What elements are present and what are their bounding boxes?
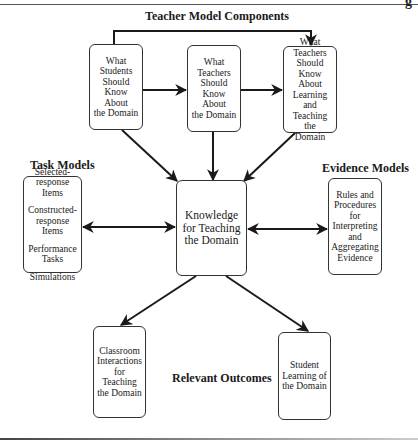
task-item-selected-response: Selected- response Items — [26, 167, 79, 199]
box-label: What Teachers Should Know About the Doma… — [190, 57, 238, 120]
box-student-learning: Student Learning of the Domain — [278, 332, 331, 420]
box-label: What Students Should Know About the Doma… — [92, 56, 140, 119]
box-evidence-models: Rules and Procedures for Interpreting an… — [328, 178, 382, 275]
bottom-rule — [0, 438, 418, 440]
arrow-component1-to-center — [122, 130, 177, 181]
box-label: Classroom Interactions for Teaching the … — [96, 346, 143, 399]
box-task-models: Selected- response Items Constructed- re… — [23, 176, 82, 273]
task-item-constructed-response: Constructed- response Items — [26, 205, 79, 237]
box-teachers-know-learning: What Teachers Should Know About Learning… — [283, 46, 337, 133]
task-model-list: Selected- response Items Constructed- re… — [26, 167, 79, 283]
heading-relevant-outcomes: Relevant Outcomes — [172, 371, 272, 386]
box-students-know: What Students Should Know About the Doma… — [89, 44, 143, 130]
arrow-component1-to-component3 — [114, 31, 311, 45]
task-item-performance-tasks: Performance Tasks — [26, 244, 79, 265]
arrow-center-to-student — [226, 276, 308, 331]
heading-teacher-model: Teacher Model Components — [145, 9, 289, 24]
box-teachers-know: What Teachers Should Know About the Doma… — [187, 45, 241, 132]
box-classroom-interactions: Classroom Interactions for Teaching the … — [93, 326, 146, 418]
box-label: What Teachers Should Know About Learning… — [286, 37, 334, 142]
box-label: Student Learning of the Domain — [282, 360, 327, 392]
arrow-center-to-classroom — [121, 276, 196, 325]
box-label: Rules and Procedures for Interpreting an… — [331, 190, 379, 264]
box-knowledge-for-teaching: Knowledge for Teaching the Domain — [176, 180, 247, 276]
box-label: Knowledge for Teaching the Domain — [182, 209, 240, 247]
heading-evidence-models: Evidence Models — [322, 161, 409, 176]
task-item-simulations: Simulations — [26, 272, 79, 283]
